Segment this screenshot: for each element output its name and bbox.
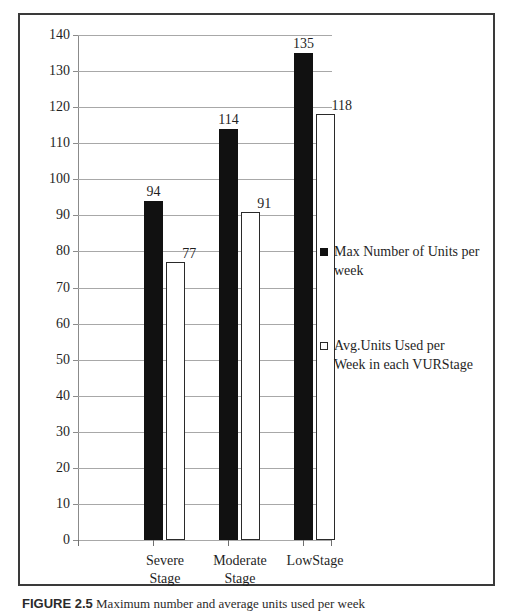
y-axis-tick-mark [73,432,78,433]
y-axis-tick-label: 70 [56,281,70,295]
bar-max: 114 [219,129,238,540]
y-axis-tick-mark [73,35,78,36]
y-axis-tick-label: 50 [56,353,70,367]
x-axis-category-label: LowStage [273,552,357,570]
legend-entry: Avg.Units Used per Week in each VURStage [320,337,495,375]
y-axis-tick-mark [73,504,78,505]
bar-chart: 0102030405060708090100110120130140 94771… [20,15,497,588]
figure-caption: FIGURE 2.5 Maximum number and average un… [22,596,492,611]
y-axis-tick-label: 140 [49,28,70,42]
bar-value-label: 118 [332,99,352,113]
bar-value-label: 94 [147,185,161,199]
y-axis-tick-mark [73,71,78,72]
category-label-line: Stage [123,570,207,588]
legend-label: Avg.Units Used per Week in each VURStage [334,337,473,375]
y-axis-tick-label: 110 [50,136,70,150]
filled-square-marker [320,248,328,256]
x-axis-tick-mark [228,540,229,546]
x-axis-category-label: SevereStage [123,552,207,587]
y-axis-tick-label: 40 [56,389,70,403]
chart-legend: Max Number of Units per weekAvg.Units Us… [320,243,495,375]
legend-entry: Max Number of Units per week [320,243,495,281]
bar-max: 135 [294,53,313,540]
plot-region: 0102030405060708090100110120130140 94771… [78,35,316,540]
y-axis-tick-label: 10 [56,497,70,511]
y-axis-tick-mark [73,324,78,325]
y-axis-tick-label: 90 [56,208,70,222]
bar-avg: 77 [166,262,185,540]
y-axis-tick-label: 120 [49,100,70,114]
bar-value-label: 91 [257,197,271,211]
category-label-line: Severe [123,552,207,570]
category-label-line: LowStage [273,552,357,570]
bar-value-label: 135 [293,37,314,51]
x-axis-tick-mark [331,540,332,546]
legend-label: Max Number of Units per week [334,243,479,281]
y-axis-tick-mark [73,143,78,144]
y-axis-tick-label: 30 [56,425,70,439]
figure-frame: 0102030405060708090100110120130140 94771… [18,13,495,586]
gridline [78,540,332,541]
y-axis-tick-label: 130 [49,64,70,78]
y-axis-tick-mark [73,468,78,469]
x-axis-tick-mark [153,540,154,546]
category-label-line: Stage [198,570,282,588]
x-axis-tick-mark [303,540,304,546]
y-axis-tick-mark [73,107,78,108]
y-axis-tick-mark [73,396,78,397]
y-axis-tick-label: 60 [56,317,70,331]
y-axis-tick-label: 80 [56,244,70,258]
y-axis-tick-label: 0 [63,533,70,547]
bar-value-label: 114 [218,113,238,127]
x-axis-category-label: ModerateStage [198,552,282,587]
y-axis-tick-label: 100 [49,172,70,186]
y-axis-tick-mark [73,215,78,216]
bar-value-label: 77 [182,247,196,261]
y-axis-tick-mark [73,251,78,252]
y-axis-tick-mark [73,179,78,180]
figure-caption-label: FIGURE 2.5 [22,596,93,611]
y-axis-tick-mark [73,288,78,289]
bar-avg: 91 [241,212,260,540]
x-axis-tick-mark [78,540,79,546]
y-axis-tick-mark [73,360,78,361]
hollow-square-marker [320,342,328,350]
y-axis-tick-label: 20 [56,461,70,475]
figure-caption-text: Maximum number and average units used pe… [93,596,365,611]
bar-max: 94 [144,201,163,540]
category-label-line: Moderate [198,552,282,570]
